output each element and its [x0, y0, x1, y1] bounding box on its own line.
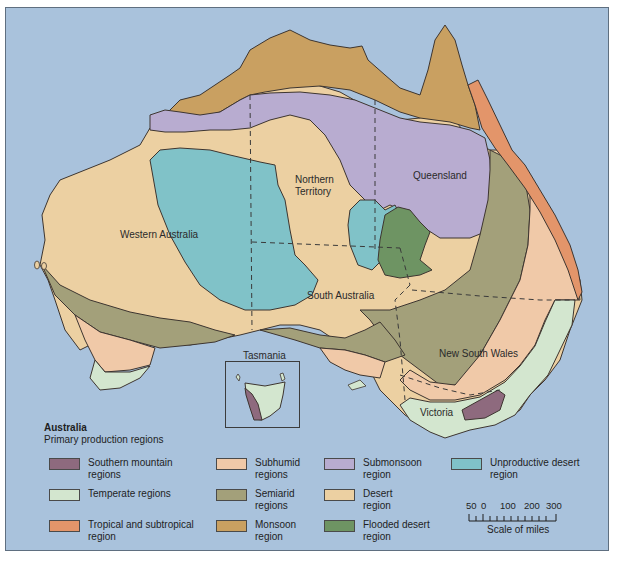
- legend-swatch-tropical: [49, 520, 80, 532]
- label-new-south-wales: New South Wales: [439, 348, 518, 360]
- scale-ruler: [466, 512, 566, 524]
- legend-label: region: [490, 469, 518, 480]
- legend-item-desert: Desertregion: [324, 488, 443, 512]
- legend-item-tropical: Tropical and subtropicalregion: [49, 519, 208, 543]
- legend-item-semiarid: Semiaridregions: [216, 488, 325, 512]
- label-northern-territory-2: Territory: [295, 186, 331, 198]
- legend-label: regions: [255, 500, 288, 511]
- scale-tick-label: 50: [466, 500, 477, 511]
- legend-swatch-semiarid: [216, 489, 247, 501]
- label-tasmania: Tasmania: [243, 350, 286, 362]
- legend-label: Southern mountain: [88, 457, 173, 468]
- label-south-australia: South Australia: [307, 290, 374, 302]
- legend-label: regions: [255, 469, 288, 480]
- legend-label: Tropical and subtropical: [88, 519, 194, 530]
- legend-item-temperate: Temperate regions: [49, 488, 208, 501]
- legend-item-monsoon: Monsoonregion: [216, 519, 325, 543]
- scale-tick-label: 200: [524, 500, 540, 511]
- scale-caption: Scale of miles: [487, 524, 549, 535]
- legend-swatch-flooded-desert: [324, 520, 355, 532]
- legend-item-submonsoon: Submonsoonregion: [324, 457, 443, 481]
- legend-swatch-submonsoon: [324, 458, 355, 470]
- legend-label: Monsoon: [255, 519, 296, 530]
- legend-item-unproductive-desert: Unproductive desertregion: [451, 457, 610, 481]
- legend-label: region: [363, 531, 391, 542]
- legend-label: region: [255, 531, 283, 542]
- legend-label: Subhumid: [255, 457, 300, 468]
- scale-tick-label: 0: [481, 500, 486, 511]
- scale-tick-label: 300: [546, 500, 562, 511]
- legend-item-subhumid: Subhumidregions: [216, 457, 325, 481]
- legend-label: Flooded desert: [363, 519, 430, 530]
- legend-label: Semiarid: [255, 488, 294, 499]
- legend-item-flooded-desert: Flooded desertregion: [324, 519, 443, 543]
- tasmania-inset: [225, 361, 300, 428]
- scale-tick-label: 100: [500, 500, 516, 511]
- scale-bar: 50 0 100 200 300 Scale of miles: [466, 500, 566, 512]
- legend-label: region: [363, 500, 391, 511]
- legend-swatch-temperate: [49, 489, 80, 501]
- label-western-australia: Western Australia: [120, 229, 198, 241]
- legend-item-southern-mountain: Southern mountainregions: [49, 457, 208, 481]
- legend-label: region: [363, 469, 391, 480]
- legend-swatch-subhumid: [216, 458, 247, 470]
- label-queensland: Queensland: [413, 170, 467, 182]
- legend-swatch-desert: [324, 489, 355, 501]
- legend-label: region: [88, 531, 116, 542]
- legend-label: Unproductive desert: [490, 457, 580, 468]
- legend-label: regions: [88, 469, 121, 480]
- legend-label: Submonsoon: [363, 457, 422, 468]
- legend-swatch-southern-mountain: [49, 458, 80, 470]
- label-northern-territory-1: Northern: [295, 174, 334, 186]
- legend-title: Australia: [44, 422, 87, 433]
- legend-label: Temperate regions: [88, 488, 171, 499]
- legend-swatch-unproductive-desert: [451, 458, 482, 470]
- legend-swatch-monsoon: [216, 520, 247, 532]
- legend-label: Desert: [363, 488, 392, 499]
- legend-subtitle: Primary production regions: [44, 434, 164, 445]
- label-victoria: Victoria: [420, 407, 453, 419]
